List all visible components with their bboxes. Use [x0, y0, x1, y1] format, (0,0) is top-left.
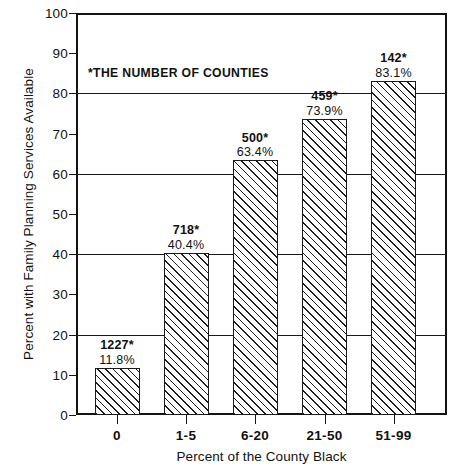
ytick-label-60: 60: [53, 168, 68, 182]
xtick-label-3: 21-50: [306, 428, 342, 443]
bar-chart: 0 10 20 30 40 50 60 70 80 90 100 *THE NU…: [0, 0, 462, 474]
bar-label-3: 459* 73.9%: [306, 89, 342, 118]
ytick-50: [69, 214, 76, 215]
ytick-0: [69, 415, 76, 416]
ytick-20: [69, 335, 76, 336]
ytick-label-40: 40: [53, 248, 68, 262]
y-axis-title: Percent with Family Planning Services Av…: [21, 13, 36, 415]
ytick-label-80: 80: [53, 87, 68, 101]
ytick-70: [69, 134, 76, 135]
xtick-0: [117, 415, 118, 424]
ytick-100: [69, 13, 76, 14]
bar-pct-2: 63.4%: [237, 145, 273, 160]
ytick-label-100: 100: [45, 7, 68, 21]
bar-2: [233, 160, 278, 415]
ytick-80: [69, 93, 76, 94]
ytick-label-10: 10: [53, 369, 68, 383]
xtick-label-1: 1-5: [176, 428, 196, 443]
xtick-label-2: 6-20: [241, 428, 269, 443]
bar-label-4: 142* 83.1%: [375, 51, 411, 80]
xtick-label-0: 0: [113, 428, 121, 443]
ytick-90: [69, 53, 76, 54]
xtick-4: [394, 415, 395, 424]
bar-count-0: 1227*: [99, 338, 135, 353]
chart-annotation: *THE NUMBER OF COUNTIES: [88, 66, 269, 80]
bar-1: [164, 253, 209, 415]
ytick-30: [69, 294, 76, 295]
ytick-10: [69, 375, 76, 376]
bar-pct-1: 40.4%: [168, 238, 204, 253]
ytick-label-70: 70: [53, 128, 68, 142]
bar-pct-3: 73.9%: [306, 104, 342, 119]
ytick-60: [69, 174, 76, 175]
xtick-1: [186, 415, 187, 424]
bar-pct-4: 83.1%: [375, 66, 411, 81]
ytick-label-30: 30: [53, 288, 68, 302]
ytick-label-90: 90: [53, 47, 68, 61]
bar-3: [302, 119, 347, 415]
bar-count-4: 142*: [375, 51, 411, 66]
ytick-40: [69, 254, 76, 255]
bar-label-2: 500* 63.4%: [237, 131, 273, 160]
xtick-2: [255, 415, 256, 424]
bar-count-1: 718*: [168, 223, 204, 238]
ytick-label-20: 20: [53, 329, 68, 343]
bar-pct-0: 11.8%: [99, 353, 135, 368]
bar-4: [371, 81, 416, 415]
x-axis-title: Percent of the County Black: [76, 449, 447, 464]
ytick-label-0: 0: [60, 409, 68, 423]
xtick-label-4: 51-99: [375, 428, 411, 443]
bar-label-0: 1227* 11.8%: [99, 338, 135, 367]
bar-0: [95, 368, 140, 415]
xtick-3: [325, 415, 326, 424]
bar-label-1: 718* 40.4%: [168, 223, 204, 252]
bar-count-2: 500*: [237, 131, 273, 146]
bar-count-3: 459*: [306, 89, 342, 104]
ytick-label-50: 50: [53, 208, 68, 222]
